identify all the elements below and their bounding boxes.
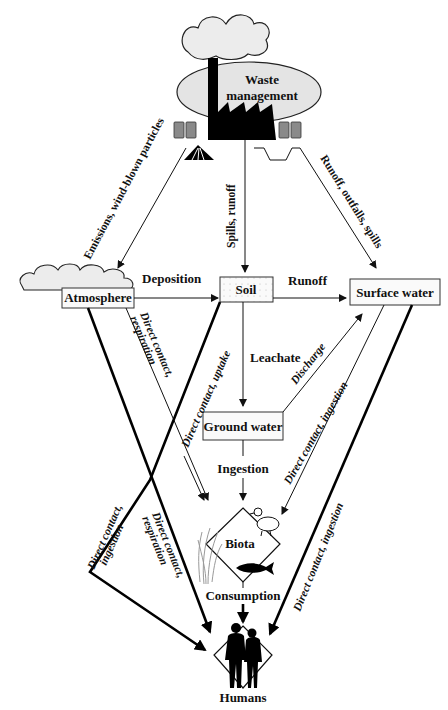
label-consumption: Consumption <box>205 588 281 603</box>
soil-node: Soil <box>220 277 273 302</box>
label-deposition: Deposition <box>142 271 202 286</box>
edge-runoff-outfalls <box>300 148 376 268</box>
surface-water-label: Surface water <box>356 285 434 300</box>
ground-water-node: Ground water <box>203 412 283 440</box>
smoke-cloud-icon <box>182 15 269 60</box>
ground-water-label: Ground water <box>204 419 283 434</box>
landfill-pile-icon <box>184 145 214 160</box>
humans-label: Humans <box>220 690 267 705</box>
label-spills-runoff: Spills, runoff <box>225 184 238 248</box>
label-emissions: Emissions, wind-blown particles <box>81 115 167 261</box>
atmosphere-label: Atmosphere <box>64 290 132 305</box>
soil-label: Soil <box>236 282 257 297</box>
label-leachate: Leachate <box>250 350 301 365</box>
label-sw-humans: Direct contact, ingestion <box>290 501 346 614</box>
biota-label: Biota <box>225 536 255 551</box>
label-ingestion: Ingestion <box>217 461 269 476</box>
diagram-canvas: Waste management Atmosphere Soil Surface… <box>0 0 448 710</box>
source-label-line2: management <box>226 88 298 103</box>
edge-soil-biota <box>184 456 204 500</box>
source-label-line1: Waste <box>245 72 279 87</box>
diagram-svg: Waste management Atmosphere Soil Surface… <box>0 0 448 710</box>
surface-water-node: Surface water <box>350 279 440 305</box>
atmosphere-node: Atmosphere <box>62 288 134 308</box>
label-runoff: Runoff <box>288 273 328 288</box>
lagoon-pit-icon <box>254 148 300 160</box>
cloud-icon <box>20 264 133 290</box>
label-runoff-outfalls: Runoff, outfalls, spills <box>317 153 385 251</box>
